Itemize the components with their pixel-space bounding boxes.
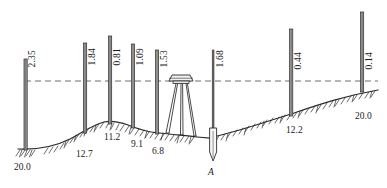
staff-reading-0-44: 0.44 (294, 52, 304, 69)
staff-reading-1-09: 1.09 (136, 48, 146, 65)
level-instrument-on-tripod (166, 75, 197, 136)
elevation-right-20-0: 20.0 (355, 112, 372, 122)
ground-profile-group (16, 90, 378, 157)
tripod-legs (166, 84, 196, 137)
elevation-12-2: 12.2 (286, 126, 303, 136)
leveling-diagram-canvas (0, 0, 387, 188)
elevation-11-2: 11.2 (104, 133, 120, 143)
tripod-head-plate (173, 81, 189, 83)
staff-2-35 (24, 59, 27, 150)
station-peg-A (210, 128, 217, 161)
staff-reading-1-68: 1.68 (216, 50, 226, 67)
staff-reading-2-35: 2.35 (28, 50, 38, 67)
staff-reading-1-53: 1.53 (160, 50, 170, 67)
elevation-left-20-0: 20.0 (14, 163, 31, 173)
staff-1-68 (212, 50, 214, 135)
staff-group (24, 12, 364, 150)
leveling-diagram-figure: 2.35 1.84 0.81 1.09 1.53 1.68 0.44 0.14 … (0, 0, 387, 188)
station-label-A: A (208, 168, 214, 178)
ground-hatching (16, 91, 375, 157)
staff-reading-0-81: 0.81 (113, 48, 123, 65)
staff-reading-0-14: 0.14 (365, 52, 375, 69)
staff-0-44 (290, 29, 293, 116)
staff-reading-1-84: 1.84 (88, 48, 98, 65)
elevation-6-8: 6.8 (152, 147, 164, 157)
elevation-12-7: 12.7 (76, 150, 93, 160)
elevation-9-1: 9.1 (131, 140, 143, 150)
